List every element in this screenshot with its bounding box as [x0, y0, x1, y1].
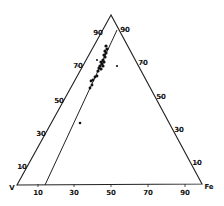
- data-points: [79, 44, 118, 124]
- tick-label-right: 90: [120, 27, 130, 34]
- vertex-label-v: V: [9, 185, 14, 192]
- data-point: [90, 80, 93, 83]
- data-point: [79, 122, 82, 125]
- data-point: [94, 76, 97, 79]
- tick-label-right: 50: [156, 94, 166, 101]
- tick-marks: [21, 30, 198, 187]
- tick-label-left: 50: [54, 98, 64, 105]
- data-point: [104, 44, 107, 47]
- tick-label-right: 10: [192, 160, 202, 167]
- data-point: [101, 64, 104, 67]
- tick-label-right: 70: [138, 60, 148, 67]
- data-point: [96, 69, 99, 72]
- tick-label-left: 70: [73, 63, 83, 70]
- data-point: [89, 87, 92, 90]
- tick-label-left: 30: [36, 131, 46, 138]
- tick-label-left: 90: [93, 30, 103, 37]
- ternary-diagram: [0, 0, 224, 206]
- tick-label-right: 30: [174, 127, 184, 134]
- tick-label-bottom: 70: [143, 190, 153, 197]
- data-point: [116, 65, 118, 67]
- tick-label-bottom: 90: [180, 190, 190, 197]
- data-point: [103, 55, 106, 58]
- tick-label-bottom: 50: [106, 190, 116, 197]
- tick-label-bottom: 10: [33, 190, 43, 197]
- vertex-label-fe: Fe: [204, 184, 213, 191]
- ternary-triangle-outline: [17, 15, 202, 185]
- data-point: [91, 84, 94, 87]
- data-point: [96, 59, 98, 61]
- tick-label-left: 10: [17, 164, 27, 171]
- tick-label-bottom: 30: [69, 190, 79, 197]
- data-point: [99, 67, 102, 70]
